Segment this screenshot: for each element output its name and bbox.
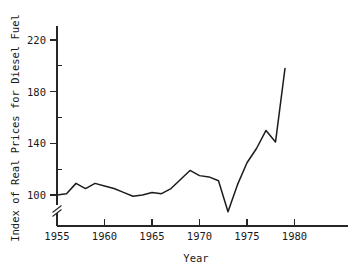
x-axis-title: Year [183,252,208,264]
data-series-diesel-price-index [57,68,285,211]
y-axis-group: 220 180 140 100 Index of Real Prices for… [9,14,62,242]
x-tick-label-1955: 1955 [44,230,69,242]
x-tick-label-1965: 1965 [139,230,164,242]
y-tick-label-100: 100 [27,189,46,201]
y-tick-label-180: 180 [27,86,46,98]
chart-figure: 220 180 140 100 Index of Real Prices for… [0,0,363,272]
x-tick-label-1960: 1960 [92,230,117,242]
y-tick-label-140: 140 [27,137,46,149]
x-axis-group: 1955 1960 1965 1970 1975 1980 Year [44,219,348,264]
line-chart-canvas: 220 180 140 100 Index of Real Prices for… [0,0,363,272]
y-tick-label-220: 220 [27,34,46,46]
x-tick-label-1975: 1975 [234,230,259,242]
x-tick-label-1970: 1970 [187,230,212,242]
y-axis-title: Index of Real Prices for Diesel Fuel [9,14,21,242]
x-tick-label-1980: 1980 [282,230,307,242]
